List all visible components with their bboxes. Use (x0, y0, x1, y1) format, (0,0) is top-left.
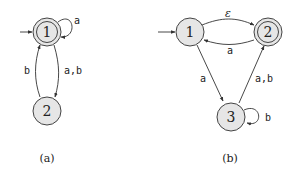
state-a-1: 1 (33, 18, 61, 46)
state-label: 2 (43, 103, 52, 119)
edge-b-3-3 (244, 108, 259, 123)
edge-label-b-3-3: b (265, 112, 271, 123)
caption-a: (a) (39, 152, 54, 165)
state-a-2: 2 (33, 97, 61, 125)
edge-b-1-2 (202, 19, 254, 25)
edge-label-a-2-1: b (24, 65, 30, 76)
edge-label-b-1-2: ε (225, 7, 231, 20)
state-label: 3 (227, 109, 236, 125)
nfa-figure: a a,b b 1 2 (a) ε a a (0, 0, 304, 179)
caption-b: (b) (222, 152, 238, 165)
state-label: 2 (264, 24, 273, 40)
diagram-b: ε a a a,b b 1 2 3 (b) (158, 7, 282, 165)
diagram-a: a a,b b 1 2 (a) (20, 15, 82, 165)
edge-a-2-1 (36, 45, 41, 97)
state-label: 1 (43, 24, 52, 40)
state-label: 1 (186, 24, 195, 40)
edge-a-1-2 (54, 45, 59, 97)
state-b-1: 1 (176, 18, 204, 46)
state-b-3: 3 (217, 103, 245, 131)
edge-label-b-3-2: a,b (255, 73, 273, 84)
state-b-2: 2 (254, 18, 282, 46)
edge-label-a-1-2: a,b (64, 65, 82, 76)
edge-label-b-1-3: a (200, 73, 206, 84)
edge-label-b-2-1: a (227, 45, 233, 56)
edge-label-a-1-1: a (74, 15, 80, 26)
